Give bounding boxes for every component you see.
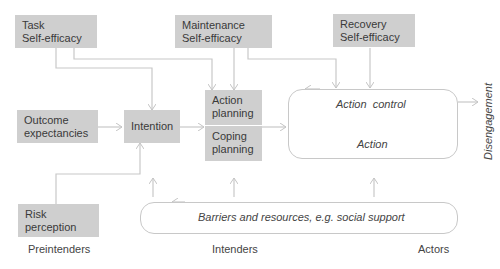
node-coping-planning: Coping planning [205,126,262,161]
label-disengagement: Disengagement [482,83,494,160]
node-action-planning: Action planning [205,90,262,125]
arrow-task-to-action-planning [74,48,212,90]
arrow-task-to-intention [56,48,152,110]
node-outcome-expectancies: Outcome expectancies [17,110,98,143]
arrow-maintenance-to-action-control [248,48,336,88]
stage-intenders: Intenders [212,243,258,255]
node-task-self-efficacy: Task Self-efficacy [15,15,97,48]
stage-actors: Actors [418,243,449,255]
node-risk-perception: Risk perception [18,204,99,237]
node-barriers: Barriers and resources, e.g. social supp… [198,211,405,223]
stage-preintenders: Preintenders [28,243,90,255]
node-maintenance-self-efficacy: Maintenance Self-efficacy [175,15,272,48]
node-action: Action [357,138,388,150]
node-recovery-self-efficacy: Recovery Self-efficacy [333,14,415,47]
node-action-control: Action control [336,98,406,110]
arrow-risk-to-intention [56,143,140,204]
node-intention: Intention [124,110,180,143]
